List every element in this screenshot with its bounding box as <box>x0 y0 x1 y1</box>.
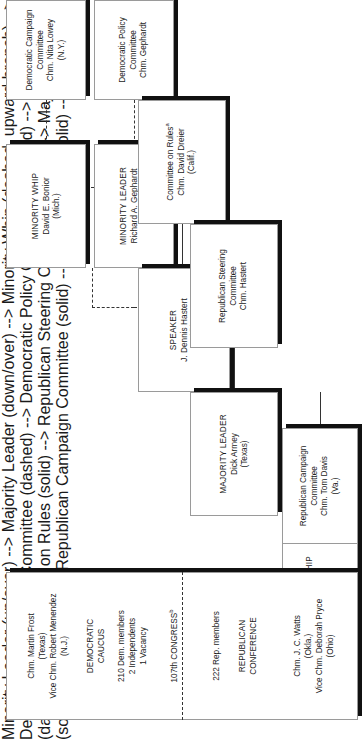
rep-steering-committee-line1: Republican Steering <box>218 249 229 323</box>
democratic-members-line2: 2 Independents <box>128 618 137 674</box>
committee-on-rules-label: Committee on Rules <box>166 127 175 201</box>
democratic-vice-chair: Vice Chm. Robert Menendez <box>49 594 58 699</box>
rep-campaign-committee-line2: Committee <box>310 466 321 506</box>
committee-on-rules-state: (Calif.) <box>187 150 198 174</box>
rotated-figure-wrapper: Minority Leader (up/over) --> Majority L… <box>0 0 364 740</box>
democratic-chair: Chm. Martin Frost <box>27 613 36 679</box>
democratic-members-line1: 210 Dem. members <box>117 610 126 682</box>
connector-majority-leader-to-steering-committee <box>234 348 235 392</box>
connector-speaker-to-rules-committee <box>182 224 183 268</box>
congress-label-text: 107th CONGRESS <box>170 613 179 683</box>
dem-policy-committee-line2: Committee <box>129 30 140 70</box>
democratic-members-line3: 1 Vacancy <box>139 627 148 665</box>
rep-steering-committee-line2: Committee <box>229 266 240 306</box>
republican-conference-label: REPUBLICAN CONFERENCE <box>238 576 259 716</box>
dem-campaign-committee-line1: Democratic Campaign <box>25 10 36 91</box>
node-dem-policy-committee[interactable]: Democratic Policy Committee Chm. Gephard… <box>94 0 174 100</box>
minority-whip-state: (Mich.) <box>51 193 62 218</box>
committee-on-rules-chair: Chm. David Dreier <box>177 128 188 195</box>
rep-campaign-committee-state: (Va.) <box>331 477 342 494</box>
minority-whip-title: MINORITY WHIP <box>30 173 41 239</box>
node-majority-leader[interactable]: MAJORITY LEADER Dick Armey (Texas) <box>190 392 278 516</box>
node-rep-steering-committee[interactable]: Republican Steering Committee Chm. Haste… <box>190 224 278 348</box>
republican-vice-chair: Vice Chm. Deborah Pryce <box>315 599 324 694</box>
democratic-membership-counts: 210 Dem. members 2 Independents 1 Vacanc… <box>116 576 149 716</box>
connector-speaker-to-minority-leader-horizontal <box>92 268 93 308</box>
majority-leader-title: MAJORITY LEADER <box>218 414 229 494</box>
republican-membership-count: 222 Rep. members <box>212 576 223 716</box>
republican-conference-line2: CONFERENCE <box>249 617 258 674</box>
majority-leader-name: Dick Armey <box>229 433 240 475</box>
congress-footnote-marker: b <box>168 610 174 613</box>
republican-officers: Chm. J. C. Watts (Okla.) Vice Chm. Debor… <box>292 576 336 716</box>
democratic-officers: Chm. Martin Frost (Texas) Vice Chm. Robe… <box>26 576 70 716</box>
speaker-name: J. Dennis Hastert <box>179 298 190 362</box>
dem-policy-committee-line1: Democratic Policy <box>118 17 129 83</box>
majority-leader-state: (Texas) <box>239 440 250 467</box>
node-dem-campaign-committee[interactable]: Democratic Campaign Committee Chm. Nita … <box>6 0 86 100</box>
rep-steering-committee-chair: Chm. Hastert <box>239 262 250 310</box>
connector-speaker-to-minority-leader-vertical <box>92 307 134 308</box>
democratic-chair-state: (Texas) <box>38 633 47 660</box>
minority-whip-name: David E. Bonior <box>41 177 52 235</box>
republican-chair-state: (Okla.) <box>304 634 313 659</box>
dem-policy-committee-chair: Chm. Gephardt <box>139 22 150 78</box>
dem-campaign-committee-line2: Committee <box>36 30 47 70</box>
node-minority-whip[interactable]: MINORITY WHIP David E. Bonior (Mich.) <box>6 144 86 268</box>
republican-chair: Chm. J. C. Watts <box>293 615 302 677</box>
committee-on-rules-line1: Committee on Rulesa <box>166 123 177 200</box>
minority-leader-title: MINORITY LEADER <box>118 167 129 245</box>
democratic-caucus-line2: CAUCUS <box>97 629 106 664</box>
congress-bar-party-divider <box>182 572 183 720</box>
speaker-title: SPEAKER <box>168 310 179 350</box>
rep-campaign-committee-chair: Chm. Tom Davis <box>320 456 331 516</box>
node-rep-campaign-committee[interactable]: Republican Campaign Committee Chm. Tom D… <box>282 428 358 544</box>
connector-minority-whip-to-campaign-committee <box>46 100 47 144</box>
democratic-caucus-label: DEMOCRATIC CAUCUS <box>86 576 107 716</box>
rep-campaign-committee-line1: Republican Campaign <box>299 446 310 527</box>
node-committee-on-rules[interactable]: Committee on Rulesa Chm. David Dreier (C… <box>138 100 226 224</box>
congress-label: 107th CONGRESSb <box>170 576 181 716</box>
republican-vice-chair-state: (Ohio) <box>326 635 335 658</box>
dem-campaign-committee-state: (N.Y.) <box>57 40 68 60</box>
democratic-caucus-line1: DEMOCRATIC <box>86 619 95 673</box>
democratic-vice-chair-state: (N.J.) <box>60 636 69 656</box>
committee-on-rules-footnote-marker: a <box>165 123 171 126</box>
republican-membership-text: 222 Rep. members <box>212 611 221 681</box>
org-chart-canvas: Minority Leader (up/over) --> Majority L… <box>0 0 364 740</box>
dem-campaign-committee-chair: Chm. Nita Lowey <box>46 19 57 81</box>
republican-conference-line1: REPUBLICAN <box>238 620 247 672</box>
connector-minority-leader-to-policy-committee <box>134 100 135 144</box>
